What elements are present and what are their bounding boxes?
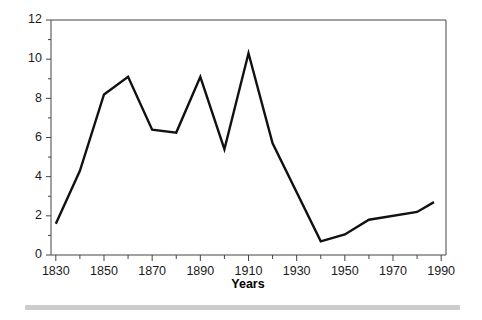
footer-divider-bar xyxy=(25,305,460,310)
chart-figure: 024681012 183018501870189019101930195019… xyxy=(0,0,482,320)
x-tick-label: 1950 xyxy=(331,264,359,278)
y-tick-label: 12 xyxy=(28,12,42,26)
y-tick-label: 2 xyxy=(35,208,42,222)
x-axis-ticks xyxy=(56,255,441,261)
y-tick-label: 8 xyxy=(35,91,42,105)
x-tick-label: 1870 xyxy=(138,264,166,278)
line-chart: 024681012 183018501870189019101930195019… xyxy=(0,0,482,320)
x-tick-label: 1990 xyxy=(427,264,455,278)
y-tick-label: 4 xyxy=(35,169,42,183)
x-axis-tick-labels: 183018501870189019101930195019701990 xyxy=(42,264,455,278)
x-tick-label: 1910 xyxy=(235,264,263,278)
x-tick-label: 1970 xyxy=(379,264,407,278)
x-tick-label: 1850 xyxy=(90,264,118,278)
x-tick-label: 1830 xyxy=(42,264,70,278)
y-axis-tick-labels: 024681012 xyxy=(28,12,42,261)
y-tick-label: 6 xyxy=(35,130,42,144)
data-series-group xyxy=(56,53,434,241)
x-tick-label: 1930 xyxy=(283,264,311,278)
y-tick-label: 10 xyxy=(28,51,42,65)
y-tick-label: 0 xyxy=(35,247,42,261)
data-line-series-1 xyxy=(56,53,434,241)
x-axis-title: Years xyxy=(231,277,264,291)
x-tick-label: 1890 xyxy=(186,264,214,278)
y-axis-ticks xyxy=(46,20,51,255)
